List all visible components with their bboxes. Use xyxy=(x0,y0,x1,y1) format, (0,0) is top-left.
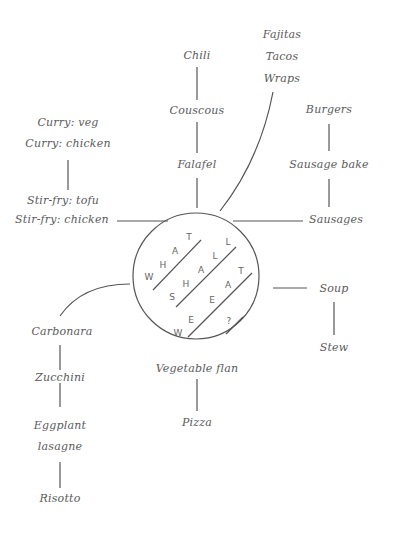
node-falafel: Falafel xyxy=(177,158,216,171)
node-curry-chicken: Curry: chicken xyxy=(25,137,110,150)
node-burgers: Burgers xyxy=(306,103,352,116)
node-stirfry-chicken: Stir-fry: chicken xyxy=(15,213,109,226)
circle-letter: ? xyxy=(227,316,232,326)
node-zucchini: Zucchini xyxy=(35,371,85,384)
circle-letter: S xyxy=(169,292,175,302)
node-tacos: Tacos xyxy=(266,50,298,63)
node-eggplant: Eggplant xyxy=(34,419,86,432)
node-pizza: Pizza xyxy=(182,416,212,429)
node-risotto: Risotto xyxy=(40,492,81,505)
circle-letter: H xyxy=(160,260,167,270)
circle-letter: E xyxy=(209,295,215,305)
circle-letter: T xyxy=(186,232,192,242)
circle-letter: W xyxy=(145,272,154,282)
node-sausages: Sausages xyxy=(309,213,363,226)
node-soup: Soup xyxy=(319,282,348,295)
node-chili: Chili xyxy=(183,49,210,62)
circle-letter: H xyxy=(183,279,190,289)
node-wraps: Wraps xyxy=(264,72,300,85)
connector-lines xyxy=(0,0,393,535)
circle-letter: W xyxy=(174,328,183,338)
circle-letter: A xyxy=(225,280,231,290)
circle-letter: E xyxy=(188,315,194,325)
circle-letter: T xyxy=(238,266,244,276)
circle-letter: A xyxy=(198,265,204,275)
node-carbonara: Carbonara xyxy=(31,325,92,338)
circle-letter: A xyxy=(172,246,178,256)
node-curry-veg: Curry: veg xyxy=(37,116,98,129)
circle-letter: L xyxy=(225,237,230,247)
node-stirfry-tofu: Stir-fry: tofu xyxy=(27,194,99,207)
node-couscous: Couscous xyxy=(170,104,225,117)
node-fajitas: Fajitas xyxy=(263,28,301,41)
node-sausage-bake: Sausage bake xyxy=(289,158,369,171)
node-vegetable-flan: Vegetable flan xyxy=(156,362,239,375)
circle-letter: L xyxy=(212,251,217,261)
node-lasagne: lasagne xyxy=(38,440,82,453)
node-stew: Stew xyxy=(320,341,349,354)
